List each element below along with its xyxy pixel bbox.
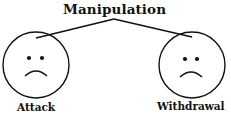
connector-left [36,19,114,38]
sad-face-icon [159,32,225,98]
branch-label-withdrawal: Withdrawal [157,100,225,112]
connector-lines [36,19,192,38]
branch-label-attack: Attack [17,101,55,113]
sad-face-icon [3,32,69,98]
